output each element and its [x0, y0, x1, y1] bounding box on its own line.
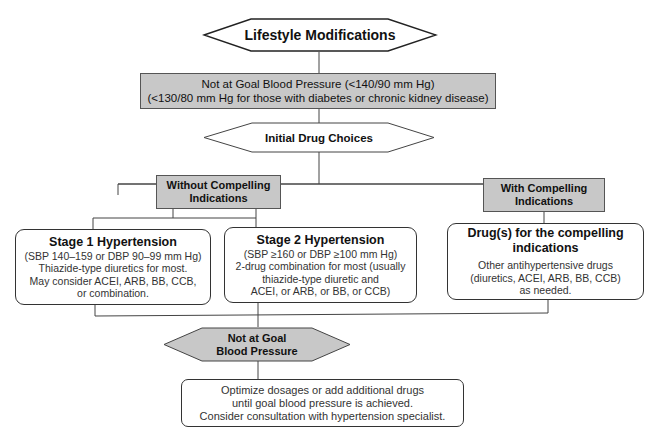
optimize-line: Consider consultation with hypertension …: [200, 410, 446, 423]
initial-drug-label: Initial Drug Choices: [265, 132, 373, 144]
compelling-drugs-title2: indications: [513, 241, 579, 256]
without-compelling-line2: Indications: [189, 192, 247, 205]
stage1-line: or combination.: [77, 287, 149, 300]
stage2-line: ACEI, or ARB, or BB, or CCB): [251, 285, 390, 298]
lifestyle-modifications-node: Lifestyle Modifications: [202, 18, 438, 52]
compelling-drugs-box: Drug(s) for the compelling indications O…: [447, 223, 644, 300]
optimize-line: Optimize dosages or add additional drugs: [221, 384, 424, 397]
optimize-line: until goal blood pressure is achieved.: [232, 397, 413, 410]
not-at-goal-line1: Not at Goal Blood Pressure (<140/90 mm H…: [202, 77, 435, 91]
not-at-goal-bp-box: Not at Goal Blood Pressure (<140/90 mm H…: [140, 73, 496, 109]
stage1-title: Stage 1 Hypertension: [49, 235, 177, 250]
lifestyle-label: Lifestyle Modifications: [245, 27, 396, 43]
not-at-goal-bp-bottom-node: Not at Goal Blood Pressure: [162, 327, 352, 362]
compelling-drugs-line: Other antihypertensive drugs: [478, 259, 613, 272]
with-compelling-indications-box: With Compelling Indications: [483, 178, 605, 212]
connector-lines: [0, 0, 655, 439]
without-compelling-indications-box: Without Compelling Indications: [156, 175, 281, 209]
without-compelling-line1: Without Compelling: [167, 179, 271, 192]
initial-drug-choices-node: Initial Drug Choices: [202, 122, 436, 153]
not-at-goal-bottom-line1: Not at Goal: [228, 332, 287, 345]
compelling-drugs-line: as needed.: [520, 284, 572, 297]
optimize-dosages-box: Optimize dosages or add additional drugs…: [181, 379, 464, 427]
stage2-line: (SBP ≥160 or DBP ≥100 mm Hg): [244, 248, 398, 261]
stage2-hypertension-box: Stage 2 Hypertension (SBP ≥160 or DBP ≥1…: [224, 227, 417, 303]
stage2-title: Stage 2 Hypertension: [257, 233, 385, 248]
stage1-line: (SBP 140–159 or DBP 90–99 mm Hg): [24, 250, 201, 263]
not-at-goal-bottom-line2: Blood Pressure: [216, 345, 297, 358]
stage1-hypertension-box: Stage 1 Hypertension (SBP 140–159 or DBP…: [15, 229, 211, 305]
compelling-drugs-title1: Drug(s) for the compelling: [467, 226, 623, 241]
not-at-goal-line2: (<130/80 mm Hg for those with diabetes o…: [147, 91, 488, 105]
with-compelling-line1: With Compelling: [501, 182, 588, 195]
with-compelling-line2: Indications: [515, 195, 573, 208]
stage2-line: thiazide-type diuretic and: [262, 273, 379, 286]
compelling-drugs-line: (diuretics, ACEI, ARB, BB, CCB): [470, 272, 621, 285]
stage1-line: Thiazide-type diuretics for most.: [39, 262, 188, 275]
stage1-line: May consider ACEI, ARB, BB, CCB,: [30, 275, 197, 288]
stage2-line: 2-drug combination for most (usually: [236, 260, 406, 273]
